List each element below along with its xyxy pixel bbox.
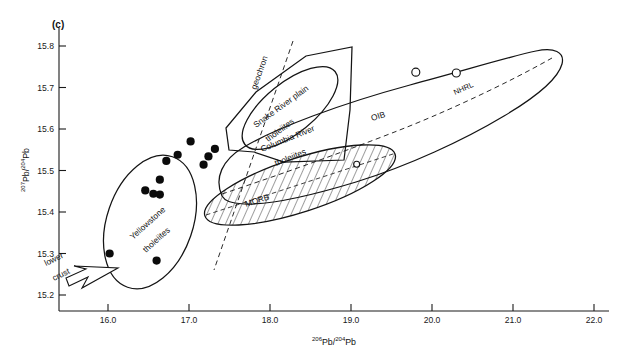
data-point xyxy=(162,157,170,165)
x-tick-label: 19.0 xyxy=(343,315,360,325)
x-tick-label: 18.0 xyxy=(262,315,279,325)
y-axis-title: 207Pb/204Pb xyxy=(20,148,31,192)
x-axis-tick-labels: 16.0 17.0 18.0 19.0 20.0 21.0 22.0 xyxy=(100,315,603,325)
field-morb: MORB xyxy=(197,128,404,241)
y-tick-label: 15.6 xyxy=(37,124,54,134)
data-point xyxy=(174,151,182,159)
field-yellowstone-tholeiites: Yellowstone tholeiites xyxy=(87,143,213,301)
data-point xyxy=(156,176,164,184)
data-point-open xyxy=(452,69,460,77)
geochron-label: geochron xyxy=(248,54,269,91)
morb-field-hatched xyxy=(197,128,404,241)
nhrl-label: NHRL xyxy=(452,80,475,97)
x-axis-title: 206Pb/204Pb xyxy=(312,336,356,347)
data-point xyxy=(204,152,212,160)
lower-crust-arrow-icon xyxy=(66,266,118,288)
data-point-open xyxy=(412,68,420,76)
x-axis-ticks xyxy=(108,304,594,311)
y-tick-label: 15.7 xyxy=(37,83,54,93)
data-point xyxy=(199,161,207,169)
lead-isotope-scatter-figure: 15.8 15.7 15.6 15.5 15.4 15.3 15.2 16.0 … xyxy=(0,0,618,362)
y-tick-label: 15.5 xyxy=(37,166,54,176)
x-tick-label: 17.0 xyxy=(181,315,198,325)
y-axis-title-end: Pb xyxy=(21,148,31,159)
x-tick-label: 20.0 xyxy=(424,315,441,325)
snake-river-field-outline xyxy=(229,52,351,164)
data-point xyxy=(211,145,219,153)
y-tick-label: 15.2 xyxy=(37,290,54,300)
data-point xyxy=(153,256,161,264)
field-snake-river-plain-tholeiites: Snake River plain tholeiites xyxy=(229,52,351,164)
data-point xyxy=(187,137,195,145)
data-point xyxy=(106,249,114,257)
data-point-open xyxy=(354,161,360,167)
x-tick-label: 21.0 xyxy=(505,315,522,325)
data-point xyxy=(156,190,164,198)
y-axis-title-mid: Pb/ xyxy=(21,168,31,182)
x-axis-title-end: Pb xyxy=(345,337,356,347)
data-point xyxy=(141,186,149,194)
x-tick-label: 16.0 xyxy=(100,315,117,325)
x-tick-label: 22.0 xyxy=(586,315,603,325)
yellowstone-data-points xyxy=(106,137,219,264)
panel-label: (c) xyxy=(52,19,64,30)
y-tick-label: 15.4 xyxy=(37,207,54,217)
y-tick-label: 15.8 xyxy=(37,41,54,51)
x-axis-title-mid: Pb/ xyxy=(322,337,336,347)
oib-label: OIB xyxy=(370,109,387,123)
